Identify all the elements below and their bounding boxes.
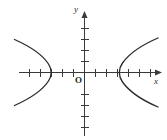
origin-label: O	[75, 75, 82, 85]
x-axis	[19, 69, 163, 77]
y-axis	[81, 11, 89, 136]
x-axis-arrowhead	[155, 70, 162, 76]
y-axis-arrowhead	[82, 11, 88, 18]
x-axis-label: x	[153, 76, 158, 86]
hyperbola-figure: x y O	[0, 0, 167, 140]
y-axis-label: y	[73, 4, 78, 14]
